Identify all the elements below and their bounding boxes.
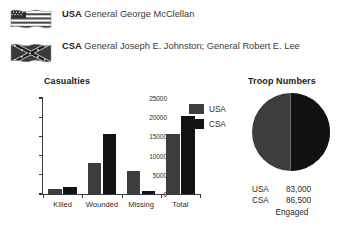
troop-pie-chart bbox=[252, 93, 330, 171]
legend-item-csa: CSA bbox=[189, 119, 226, 129]
pie-divider bbox=[290, 93, 291, 171]
troop-row-usa: USA 83,000 bbox=[252, 184, 347, 195]
casualties-plot: 0500010000150002000025000 bbox=[14, 98, 200, 202]
legend-item-usa: USA bbox=[189, 104, 226, 114]
usa-flag-icon bbox=[10, 7, 52, 33]
generals-csa: General Joseph E. Johnston; General Robe… bbox=[84, 41, 300, 51]
x-tick bbox=[200, 194, 201, 198]
commanders-section: USA General George McClellan bbox=[0, 0, 349, 67]
infographic-page: USA General George McClellan bbox=[0, 0, 349, 240]
side-label-usa: USA bbox=[62, 9, 82, 19]
x-tick bbox=[161, 194, 162, 198]
legend-swatch-csa bbox=[189, 119, 204, 129]
casualties-title: Casualties bbox=[44, 76, 90, 86]
x-tick bbox=[82, 194, 83, 198]
commander-text-usa: USA General George McClellan bbox=[62, 6, 194, 21]
x-tick bbox=[122, 194, 123, 198]
x-axis-label-killed: Killed bbox=[53, 200, 72, 209]
chart-legend: USA CSA bbox=[189, 104, 226, 134]
commander-row-usa: USA General George McClellan bbox=[0, 0, 349, 33]
commander-row-csa: CSA General Joseph E. Johnston; General … bbox=[0, 33, 349, 67]
usa-flag-cell bbox=[0, 6, 62, 33]
x-axis-labels: KilledWoundedMissingTotal bbox=[14, 200, 200, 214]
x-tick bbox=[43, 194, 44, 198]
casualties-panel: Casualties 0500010000150002000025000 Kil… bbox=[0, 76, 240, 240]
legend-label-csa: CSA bbox=[209, 120, 226, 129]
csa-flag-cell bbox=[0, 38, 62, 67]
troop-value-usa: 83,000 bbox=[286, 184, 311, 195]
x-axis-label-missing: Missing bbox=[128, 200, 154, 209]
bar-csa-wounded bbox=[103, 134, 117, 194]
side-label-csa: CSA bbox=[62, 41, 82, 51]
pie-usa-slice bbox=[252, 93, 330, 171]
troop-numbers-panel: Troop Numbers USA 83,000 CSA 86,500 Enga… bbox=[248, 76, 349, 240]
troop-numbers-title: Troop Numbers bbox=[248, 76, 316, 86]
troop-row-csa: CSA 86,500 bbox=[252, 195, 347, 206]
bar-csa-killed bbox=[63, 187, 77, 194]
csa-battle-flag-icon bbox=[10, 39, 52, 67]
bar-usa-total bbox=[166, 134, 180, 194]
troop-side-usa: USA bbox=[252, 184, 286, 195]
pie-csa-slice bbox=[290, 93, 330, 171]
troop-side-csa: CSA bbox=[252, 195, 286, 206]
bar-usa-wounded bbox=[88, 163, 102, 194]
generals-usa: General George McClellan bbox=[84, 9, 194, 19]
bar-group bbox=[43, 98, 200, 194]
legend-swatch-usa bbox=[189, 104, 204, 114]
troop-footer-label: Engaged bbox=[252, 207, 332, 219]
legend-label-usa: USA bbox=[209, 105, 226, 114]
bar-csa-missing bbox=[142, 191, 156, 194]
x-axis-label-total: Total bbox=[172, 200, 188, 209]
commander-text-csa: CSA General Joseph E. Johnston; General … bbox=[62, 38, 300, 53]
bar-usa-killed bbox=[48, 189, 62, 194]
bar-usa-missing bbox=[127, 171, 141, 194]
x-axis-label-wounded: Wounded bbox=[86, 200, 118, 209]
troop-numbers-table: USA 83,000 CSA 86,500 Engaged bbox=[252, 184, 347, 219]
troop-value-csa: 86,500 bbox=[286, 195, 311, 206]
